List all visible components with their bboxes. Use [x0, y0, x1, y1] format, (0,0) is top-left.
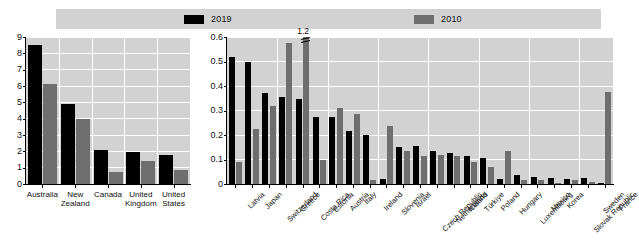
bar-2010-estonia [320, 160, 326, 185]
bar-2019-estonia [313, 117, 319, 184]
x-tick-mark [605, 185, 606, 188]
bar-2019-switzerland [262, 93, 268, 184]
y-tick-label: 0.4 [199, 82, 223, 91]
x-tick-mark [108, 185, 109, 188]
legend-label-2010: 2010 [441, 14, 462, 24]
y-tick-label: 1 [0, 163, 22, 172]
bar-2010-united-kingdom [141, 161, 155, 184]
legend-swatch-2019 [184, 15, 204, 24]
y-tick-label: 2 [0, 147, 22, 156]
bar-2019-latvia [229, 57, 235, 184]
legend-swatch-2010 [414, 15, 434, 24]
bar-2019-czech-republic [413, 146, 419, 184]
x-tick-mark [319, 185, 320, 188]
bar-2019-united-states [159, 155, 173, 184]
gridline [227, 86, 613, 87]
x-tick-label-latvia: Latvia [246, 190, 267, 211]
x-tick-mark [420, 185, 421, 188]
bar-2010-israel [404, 151, 410, 184]
y-tick-label: 0.1 [199, 155, 223, 164]
y-tick-label: 0.6 [199, 33, 223, 42]
bar-2010-japan [253, 129, 259, 184]
left-bar-chart: 0123456789 AustraliaNewZealandCanadaUnit… [0, 33, 195, 233]
bar-2019-t-rkiye [464, 156, 470, 184]
bar-2019-luxembourg [514, 175, 520, 184]
x-tick-mark [235, 185, 236, 188]
bar-2010-latvia [236, 162, 242, 184]
bar-2019-austria [329, 117, 335, 184]
x-tick-label-united-states: UnitedStates [147, 190, 201, 208]
bar-2019-mexico [531, 177, 537, 184]
y-tick-label: 0 [0, 180, 22, 189]
y-tick-label: 0.5 [199, 57, 223, 66]
x-tick-mark [75, 185, 76, 188]
y-tick-label: 3 [0, 131, 22, 140]
y-axis-line [226, 37, 227, 184]
y-tick-label: 6 [0, 82, 22, 91]
bar-2019-israel [396, 147, 402, 184]
x-tick-mark [588, 185, 589, 188]
x-tick-mark [42, 185, 43, 188]
legend-item-2019: 2019 [184, 9, 232, 29]
x-tick-mark [141, 185, 142, 188]
gridline-vertical [529, 37, 530, 184]
x-tick-mark [487, 185, 488, 188]
gridline-vertical [378, 37, 379, 184]
clipped-bar-value-label: 1.2 [297, 26, 309, 36]
right-plot-area [227, 37, 613, 184]
bar-2019-canada [94, 150, 108, 184]
bar-2010-costa-rica [303, 37, 309, 184]
x-tick-label-japan: Japan [263, 190, 284, 211]
x-tick-mark [470, 185, 471, 188]
bar-2019-netherlands [430, 151, 436, 184]
bar-2010-switzerland [270, 106, 276, 184]
bar-2019-new-zealand [61, 104, 75, 184]
bar-2010-italy [354, 114, 360, 184]
legend-item-2010: 2010 [414, 9, 462, 29]
bar-2019-united-kingdom [126, 152, 140, 184]
x-tick-mark [504, 185, 505, 188]
bar-2010-united-states [174, 170, 188, 184]
legend-label-2019: 2019 [211, 14, 232, 24]
x-tick-mark [437, 185, 438, 188]
y-tick-label: 0.2 [199, 131, 223, 140]
bar-2019-iceland [447, 153, 453, 184]
gridline-vertical [579, 37, 580, 184]
bar-2010-hungary [505, 151, 511, 184]
gridline [26, 37, 190, 38]
bar-2010-czech-republic [421, 156, 427, 184]
x-tick-mark [286, 185, 287, 188]
x-tick-mark [303, 185, 304, 188]
x-tick-mark [370, 185, 371, 188]
x-tick-mark [269, 185, 270, 188]
x-tick-mark [336, 185, 337, 188]
x-tick-mark [454, 185, 455, 188]
legend: 2019 2010 [56, 9, 601, 29]
gridline [227, 37, 613, 38]
gridline [26, 69, 190, 70]
gridline [26, 53, 190, 54]
bar-2010-austria [337, 108, 343, 184]
y-tick-label: 0 [199, 180, 223, 189]
bar-2019-ireland [363, 135, 369, 184]
bar-2019-costa-rica [296, 99, 302, 184]
y-tick-label: 4 [0, 114, 22, 123]
x-tick-label-hungary: Hungary [517, 190, 543, 216]
bar-2010-poland [488, 167, 494, 184]
bar-2019-australia [28, 45, 42, 184]
right-bar-chart: 00.10.20.30.40.50.6 LatviaJapanSwitzerla… [196, 33, 617, 241]
bar-2010-slovenia [387, 126, 393, 184]
x-tick-mark [353, 185, 354, 188]
x-tick-mark [571, 185, 572, 188]
bar-2010-france [605, 92, 611, 184]
y-tick-label: 9 [0, 33, 22, 42]
x-tick-mark [252, 185, 253, 188]
y-tick-label: 7 [0, 65, 22, 74]
x-tick-mark [403, 185, 404, 188]
bar-2019-italy [346, 131, 352, 184]
bar-2019-greece [279, 97, 285, 184]
axis-break-marker [301, 38, 310, 42]
gridline-vertical [92, 37, 93, 184]
bar-2010-netherlands [438, 155, 444, 184]
gridline [227, 61, 613, 62]
